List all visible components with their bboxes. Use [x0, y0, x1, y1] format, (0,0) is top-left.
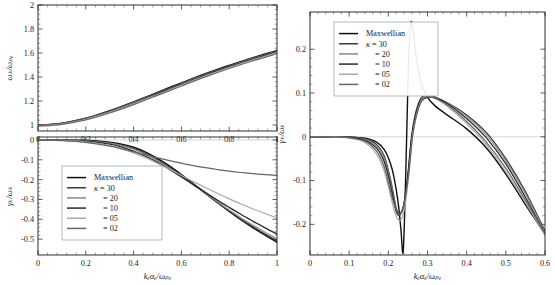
x-tick-label: 0.1 [344, 259, 354, 268]
series-line-growth-1 [310, 97, 545, 231]
x-tick-label: 0.6 [540, 259, 550, 268]
y-tick-label: -0.1 [293, 176, 306, 185]
legend-label-5: = 02 [103, 224, 118, 233]
y-tick-label: -0.4 [21, 215, 34, 224]
legend-label-2: = 20 [375, 50, 390, 59]
legend-label-2: = 20 [103, 194, 118, 203]
x-tick-label: 0.5 [501, 259, 511, 268]
x-tick-label: 0.4 [128, 259, 138, 268]
legend-label-1: κ = 30 [366, 40, 387, 49]
x-tick-label: 0.8 [224, 259, 234, 268]
legend-label-5: = 02 [375, 80, 390, 89]
legend-label-4: = 05 [375, 70, 390, 79]
series-line-dispersion-4 [38, 53, 277, 126]
legend-damping: Maxwellianκ = 30= 20= 10= 05= 02 [62, 166, 162, 240]
legend-label-1: κ = 30 [94, 184, 115, 193]
x-tick-label: 0.2 [383, 259, 393, 268]
legend-label-0: Maxwellian [94, 173, 133, 182]
y-tick-label: 0 [302, 133, 306, 142]
x-tick-label: 0.3 [422, 259, 432, 268]
y-tick-label: 0.2 [296, 45, 306, 54]
series-line-dispersion-5 [38, 54, 277, 126]
x-tick-label: 0 [36, 259, 40, 268]
x-tick-label: 1 [275, 259, 279, 268]
y-tick-label: 0 [30, 136, 34, 145]
y-tick-label: 1.6 [24, 49, 34, 58]
plot-frame-dispersion [38, 5, 277, 131]
x-axis-label: kₑαₑ/ωₚₑ [144, 271, 172, 281]
y-tick-label: -0.3 [21, 195, 34, 204]
y-axis-label: γₖ/ωₖ [276, 124, 286, 144]
y-tick-label: -0.2 [21, 176, 34, 185]
y-tick-label: -0.2 [293, 220, 306, 229]
x-tick-label: 0.6 [176, 259, 186, 268]
y-axis-label: γₖ/ωₖ [4, 186, 14, 206]
y-tick-label: 1 [30, 121, 34, 130]
y-tick-label: -0.1 [21, 156, 34, 165]
y-tick-label: 1.8 [24, 25, 34, 34]
panel-dispersion: 00.20.40.60.8111.21.41.61.82ωₖ/ωₚₑ [4, 1, 279, 144]
y-axis-label: ωₖ/ωₚₑ [4, 56, 14, 81]
y-tick-label: 2 [30, 1, 34, 10]
x-axis-label: kₑαₑ/ωₚₑ [414, 271, 442, 281]
plot-canvas: 00.20.40.60.8111.21.41.61.82ωₖ/ωₚₑ00.20.… [0, 0, 555, 285]
y-tick-label: 1.2 [24, 97, 34, 106]
legend-label-0: Maxwellian [366, 29, 405, 38]
y-tick-label: 0.1 [296, 89, 306, 98]
legend-growth: Maxwellianκ = 30= 20= 10= 05= 02 [334, 22, 438, 96]
x-tick-label: 0.4 [462, 259, 472, 268]
figure-root: 00.20.40.60.8111.21.41.61.82ωₖ/ωₚₑ00.20.… [0, 0, 555, 285]
legend-label-3: = 10 [375, 60, 390, 69]
y-tick-label: -0.5 [21, 235, 34, 244]
legend-label-3: = 10 [103, 204, 118, 213]
y-tick-label: 1.4 [24, 73, 34, 82]
legend-label-4: = 05 [103, 214, 118, 223]
series-group-dispersion [38, 51, 277, 127]
x-tick-label: 0.2 [81, 259, 91, 268]
x-tick-label: 0 [308, 259, 312, 268]
